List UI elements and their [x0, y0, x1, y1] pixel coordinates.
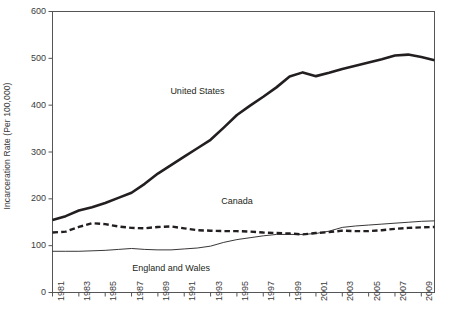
- x-tick-label: 1983: [83, 280, 92, 300]
- x-tick-label: 1991: [188, 280, 197, 300]
- x-tick-label: 2009: [425, 280, 434, 300]
- x-tick-label: 1999: [294, 280, 303, 300]
- data-series: [53, 55, 435, 252]
- series-label-united-states: United States: [170, 86, 224, 96]
- x-tick-label: 1989: [162, 280, 171, 300]
- x-tick-label: 1997: [267, 280, 276, 300]
- x-tick-label: 2005: [373, 280, 382, 300]
- tick-marks: [49, 12, 422, 297]
- x-tick-label: 1987: [136, 280, 145, 300]
- x-tick-label: 1995: [241, 280, 250, 300]
- x-tick-label: 1985: [109, 280, 118, 300]
- x-tick-label: 1993: [215, 280, 224, 300]
- series-label-england-and-wales: England and Wales: [132, 263, 210, 273]
- x-tick-label: 1981: [57, 280, 66, 300]
- x-tick-label: 2007: [399, 280, 408, 300]
- series-line-england-and-wales: [53, 221, 435, 251]
- series-line-united-states: [53, 55, 435, 220]
- series-label-canada: Canada: [221, 196, 253, 206]
- incarceration-rate-chart: Incarceration Rate (Per 100,000) 0100200…: [0, 0, 449, 336]
- x-tick-label: 2001: [320, 280, 329, 300]
- x-tick-label: 2003: [346, 280, 355, 300]
